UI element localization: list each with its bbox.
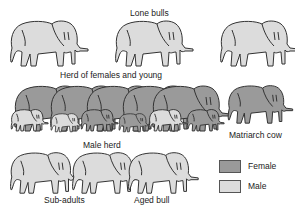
elephant-young-male-2: [50, 112, 84, 133]
label-matriarch-cow: Matriarch cow: [229, 130, 282, 140]
elephant-lone-bull-2: [113, 18, 197, 68]
elephant-lone-bull-3: [218, 18, 295, 68]
elephant-young-female-3: [186, 108, 226, 132]
label-lone-bulls: Lone bulls: [130, 8, 169, 18]
elephant-young-female-2: [118, 112, 152, 133]
label-sub-adults: Sub-adults: [44, 195, 85, 205]
elephant-young-female-1: [80, 108, 120, 132]
legend-swatch-female: [219, 160, 241, 173]
legend-label-female: Female: [248, 161, 276, 171]
elephant-lone-bull-1: [8, 18, 92, 68]
legend-swatch-male: [219, 180, 241, 193]
label-herd-females-young: Herd of females and young: [60, 70, 162, 80]
elephant-young-male-3: [148, 108, 188, 132]
label-male-herd: Male herd: [83, 140, 121, 150]
label-aged-bull: Aged bull: [134, 195, 169, 205]
elephant-aged-bull: [126, 150, 202, 195]
elephant-young-male-1: [10, 108, 50, 132]
legend-label-male: Male: [248, 181, 266, 191]
elephant-matriarch-cow: [226, 82, 295, 126]
